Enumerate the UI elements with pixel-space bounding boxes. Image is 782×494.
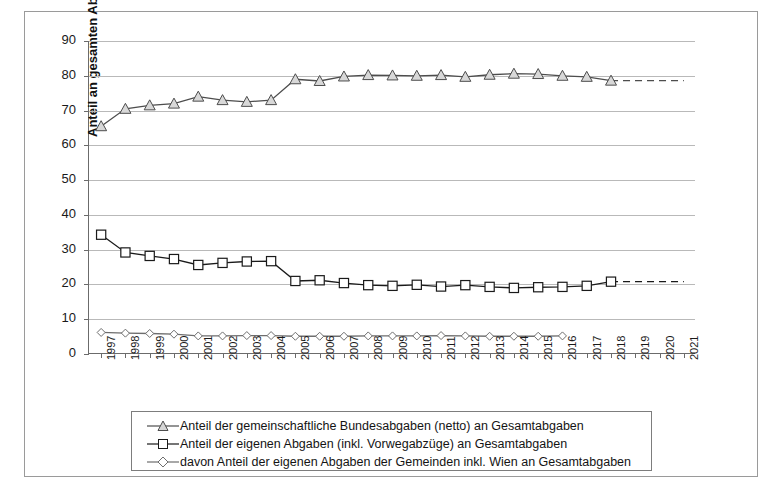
data-point (169, 254, 178, 263)
x-axis-label: 2011 (445, 336, 457, 360)
y-axis-label: 30 (36, 241, 76, 256)
x-axis-label: 2010 (421, 336, 433, 360)
legend-item-eigene-abgaben: Anteil der eigenen Abgaben (inkl. Vorweg… (132, 435, 651, 453)
data-point (96, 121, 107, 131)
data-point (413, 332, 421, 340)
data-point (218, 258, 227, 267)
x-axis-label: 2007 (348, 336, 360, 360)
y-axis-label: 80 (36, 67, 76, 82)
data-point (97, 230, 106, 239)
x-axis-label: 2000 (178, 336, 190, 360)
data-point (388, 281, 397, 290)
x-axis-label: 2003 (251, 336, 263, 360)
data-point (316, 332, 324, 340)
x-axis-label: 2006 (324, 336, 336, 360)
triangle-marker-icon (146, 419, 180, 433)
data-point (461, 281, 470, 290)
data-point (364, 281, 373, 290)
x-axis-label: 2004 (275, 336, 287, 360)
data-point (606, 277, 615, 286)
y-axis-label: 90 (36, 32, 76, 47)
data-point (97, 328, 105, 336)
data-point (437, 332, 445, 340)
square-marker-icon (146, 437, 180, 451)
data-point (582, 281, 591, 290)
legend-label: davon Anteil der eigenen Abgaben der Gem… (180, 455, 631, 469)
y-axis-label: 50 (36, 171, 76, 186)
data-point (267, 332, 275, 340)
data-point (558, 282, 567, 291)
data-point (194, 260, 203, 269)
x-axis-label: 1999 (154, 336, 166, 360)
plot-area: Anteil an gesamten Abgaben in % (88, 41, 695, 354)
legend-label: Anteil der gemeinschaftliche Bundesabgab… (180, 419, 584, 433)
y-axis-label: 60 (36, 136, 76, 151)
chart-legend: Anteil der gemeinschaftliche Bundesabgab… (131, 411, 652, 471)
data-point (290, 74, 301, 84)
series-triangle (96, 68, 684, 131)
x-axis-label: 2009 (397, 336, 409, 360)
x-axis-label: 2020 (664, 336, 676, 360)
x-axis-label: 2012 (469, 336, 481, 360)
legend-label: Anteil der eigenen Abgaben (inkl. Vorweg… (180, 437, 567, 451)
data-point (315, 276, 324, 285)
series-layer (89, 41, 696, 354)
y-axis-label: 40 (36, 206, 76, 221)
data-point (193, 91, 204, 101)
data-point (510, 332, 518, 340)
x-axis-label: 2021 (688, 336, 700, 360)
x-axis-label: 2014 (518, 336, 530, 360)
data-point (340, 332, 348, 340)
y-axis-tick (84, 354, 89, 355)
legend-item-gemeinden: davon Anteil der eigenen Abgaben der Gem… (132, 453, 651, 471)
chart-screenshot: zent Anteil an gesamten Abgaben in % 010… (0, 0, 782, 494)
x-axis-label: 1998 (129, 336, 141, 360)
x-axis-label: 2002 (227, 336, 239, 360)
x-axis-label: 2016 (566, 336, 578, 360)
data-point (243, 332, 251, 340)
x-axis-label: 1997 (105, 336, 117, 360)
y-axis-label: 10 (36, 310, 76, 325)
data-point (170, 330, 178, 338)
x-axis-label: 2013 (494, 336, 506, 360)
y-axis-label: 70 (36, 102, 76, 117)
data-point (436, 282, 445, 291)
data-point (339, 278, 348, 287)
data-point (389, 332, 397, 340)
data-point (534, 283, 543, 292)
data-point (146, 329, 154, 337)
data-point (121, 248, 130, 257)
data-point (534, 332, 542, 340)
diamond-marker-icon (146, 455, 180, 469)
x-axis-label: 2015 (542, 336, 554, 360)
data-point (291, 276, 300, 285)
data-point (485, 282, 494, 291)
data-point (412, 280, 421, 289)
x-axis-label: 2001 (202, 336, 214, 360)
x-axis-label: 2018 (615, 336, 627, 360)
data-point (219, 332, 227, 340)
data-point (145, 251, 154, 260)
legend-item-bundesabgaben: Anteil der gemeinschaftliche Bundesabgab… (132, 417, 651, 435)
y-axis-label: 20 (36, 275, 76, 290)
series-square (97, 230, 684, 292)
y-axis-label: 0 (36, 345, 76, 360)
x-axis-label: 2008 (372, 336, 384, 360)
x-axis-label: 2017 (591, 336, 603, 360)
data-point (486, 332, 494, 340)
x-axis-label: 2019 (639, 336, 651, 360)
data-point (267, 257, 276, 266)
data-point (509, 283, 518, 292)
data-point (242, 257, 251, 266)
x-axis-label: 2005 (299, 336, 311, 360)
